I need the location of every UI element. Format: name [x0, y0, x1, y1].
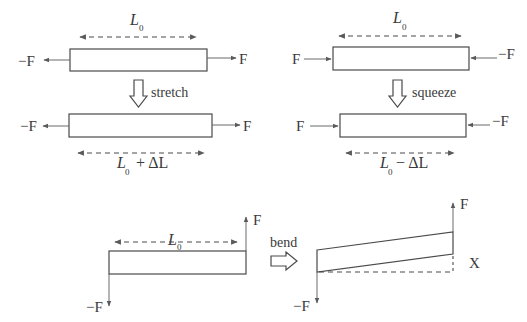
- squeeze-deformed-bar: [340, 114, 466, 137]
- stretch-original-bar: [70, 49, 207, 71]
- bend-deformed-up-force-label: F: [460, 196, 468, 212]
- squeeze-deformed-right-force-label: −F: [492, 113, 509, 129]
- bend-original-bar: [109, 251, 246, 274]
- squeeze-original-length-label: L 0: [392, 9, 407, 32]
- svg-text:− ΔL: − ΔL: [396, 154, 428, 171]
- squeeze-deformed-length-label: L 0 − ΔL: [379, 154, 428, 177]
- squeeze-left-force-label: F: [292, 51, 300, 67]
- bend-up-force-label: F: [253, 212, 261, 228]
- stretch-left-force-label: −F: [18, 53, 35, 69]
- stretch-original-length-label: L 0: [129, 11, 144, 33]
- stretch-down-arrow-icon: [130, 80, 147, 107]
- squeeze-down-arrow-icon: [389, 80, 406, 107]
- stretch-deformed-left-force-label: −F: [20, 118, 37, 134]
- svg-text:+ ΔL: + ΔL: [136, 154, 168, 171]
- squeeze-action-label: squeeze: [412, 85, 456, 100]
- deformation-diagram: L 0 −F F stretch −F F L 0 + ΔL L 0 F: [0, 0, 527, 322]
- svg-text:L: L: [167, 231, 177, 248]
- svg-text:0: 0: [139, 23, 144, 33]
- svg-text:0: 0: [125, 167, 130, 177]
- squeeze-original-bar: [333, 47, 469, 70]
- stretch-deformed-right-force-label: F: [243, 118, 251, 134]
- svg-text:0: 0: [388, 167, 393, 177]
- stretch-deformed-bar: [69, 114, 212, 137]
- bend-panel: L 0 F −F bend X F −F: [86, 196, 480, 315]
- squeeze-panel: L 0 F −F squeeze F −F L 0 − ΔL: [292, 9, 515, 177]
- svg-text:0: 0: [402, 22, 407, 32]
- svg-text:L: L: [129, 11, 139, 28]
- squeeze-right-force-label: −F: [498, 46, 515, 62]
- svg-text:L: L: [392, 9, 402, 26]
- squeeze-deformed-left-force-label: F: [296, 118, 304, 134]
- bend-action-label: bend: [270, 235, 297, 250]
- stretch-deformed-length-label: L 0 + ΔL: [116, 154, 168, 177]
- bend-down-force-label: −F: [86, 299, 103, 315]
- bend-right-arrow-icon: [271, 252, 297, 270]
- bend-deformed-bar: [317, 232, 453, 272]
- stretch-panel: L 0 −F F stretch −F F L 0 + ΔL: [18, 11, 251, 177]
- bend-deflection-label: X: [469, 255, 480, 271]
- stretch-action-label: stretch: [151, 85, 188, 100]
- bend-deformed-down-force-label: −F: [293, 298, 310, 314]
- stretch-right-force-label: F: [239, 51, 247, 67]
